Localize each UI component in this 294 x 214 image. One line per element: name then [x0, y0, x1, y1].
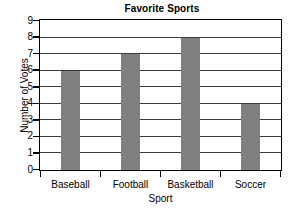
gridline	[40, 152, 281, 153]
y-axis-tick-label: 1	[11, 148, 33, 158]
x-axis-category-label: Baseball	[41, 178, 101, 191]
y-axis-tick-label: 3	[11, 115, 33, 125]
y-axis-tick-mark	[33, 136, 39, 138]
y-axis-tick-label: 7	[11, 49, 33, 59]
gridline	[40, 136, 281, 137]
x-axis-title: Sport	[39, 192, 282, 205]
gridline	[40, 103, 281, 104]
y-axis-tick-mark	[33, 20, 39, 22]
x-axis-tick-mark	[100, 171, 102, 177]
y-axis-tick-label: 5	[11, 82, 33, 92]
y-axis-tick-mark	[33, 69, 39, 71]
y-axis-tick-mark	[33, 152, 39, 154]
gridline	[40, 37, 281, 38]
y-axis-tick-mark	[33, 36, 39, 38]
x-axis-category-label: Football	[101, 178, 161, 191]
gridline	[40, 86, 281, 87]
y-axis-tick-mark	[33, 53, 39, 55]
x-axis-tick-mark	[280, 171, 282, 177]
gridline	[40, 119, 281, 120]
chart-title: Favorite Sports	[36, 2, 288, 15]
y-axis-tick-label: 0	[11, 165, 33, 175]
y-axis-tick-label: 6	[11, 65, 33, 75]
y-axis-tick-label: 2	[11, 131, 33, 141]
y-axis-tick-label: 9	[11, 16, 33, 26]
y-axis-tick-mark	[33, 169, 39, 171]
y-axis-tick-mark	[33, 103, 39, 105]
x-axis-category-label: Basketball	[161, 178, 221, 191]
gridline	[40, 53, 281, 54]
y-axis-tick-mark	[33, 86, 39, 88]
x-axis-tick-mark	[220, 171, 222, 177]
y-axis-tick-label: 4	[11, 98, 33, 108]
x-axis-category-label: Soccer	[221, 178, 281, 191]
x-axis-tick-mark	[40, 171, 42, 177]
y-axis-tick-label: 8	[11, 32, 33, 42]
y-axis-tick-mark	[33, 119, 39, 121]
plot-area	[39, 19, 282, 171]
gridline	[40, 70, 281, 71]
x-axis-tick-mark	[160, 171, 162, 177]
bar-chart: Favorite Sports Number of Votes 01234567…	[0, 0, 294, 214]
